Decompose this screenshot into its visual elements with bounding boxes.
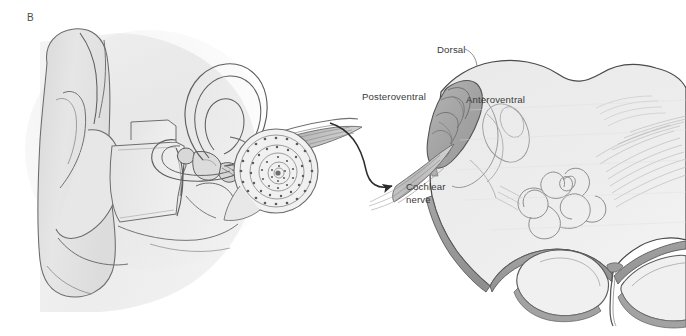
cochlea-modiolus [275, 170, 280, 175]
label-cochlear-nerve-line1: Cochlear [406, 181, 446, 192]
figure-panel-b: B [0, 0, 686, 336]
label-anteroventral: Anteroventral [466, 94, 525, 105]
anatomy-illustration: B [0, 0, 686, 336]
label-cochlear-nerve-line2: nerve [406, 194, 431, 205]
dorsal-leader-line [465, 49, 477, 66]
panel-letter: B [27, 12, 34, 23]
ear-canal-upper-step [131, 120, 176, 142]
nerve-root-fiber-tips [369, 190, 395, 210]
malleus-head [178, 148, 195, 164]
ear-canal [110, 142, 186, 222]
label-posteroventral: Posteroventral [362, 91, 426, 102]
peripheral-auditory-system [25, 29, 362, 312]
label-dorsal: Dorsal [437, 44, 466, 55]
